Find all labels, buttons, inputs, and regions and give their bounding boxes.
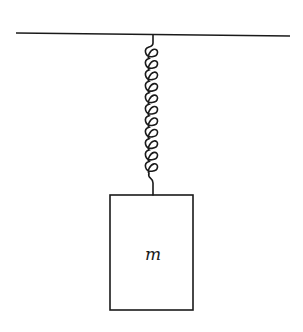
spring [145, 35, 157, 195]
spring-mass-diagram [0, 0, 303, 332]
mass-label: m [140, 244, 166, 264]
